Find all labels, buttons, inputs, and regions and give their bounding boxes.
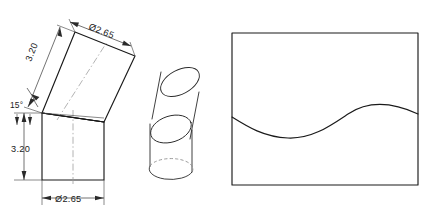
lower-cylinder-bottom-front-arc (149, 166, 192, 179)
dimension-upper-diameter-label: Ø2.65 (87, 22, 115, 41)
isometric-pictorial-view (147, 62, 204, 180)
dimension-upper-length: 3.20 (24, 25, 75, 113)
dimension-lower-length: 3.20 (11, 113, 42, 180)
upper-cylinder-right-wall (190, 92, 199, 139)
dimension-upper-length-label: 3.20 (24, 41, 40, 62)
drawing-canvas: Ø2.65 3.20 15° (0, 0, 439, 215)
development-cut-curve (232, 105, 418, 138)
technical-drawing-sheet: Ø2.65 3.20 15° (0, 0, 439, 215)
development-rectangle (232, 33, 418, 185)
lower-cylinder-bottom-hidden-arc (150, 159, 193, 172)
front-orthographic-view: Ø2.65 3.20 15° (10, 19, 135, 205)
flat-pattern-development-view (232, 33, 418, 185)
upper-branch-outline (42, 32, 135, 122)
upper-cylinder-left-wall (152, 72, 161, 119)
upper-cylinder-top-ellipse (156, 62, 204, 103)
dimension-lower-length-label: 3.20 (11, 144, 30, 154)
upper-branch-centerline (57, 42, 107, 120)
dimension-miter-angle-label: 15° (10, 100, 23, 110)
miter-face-ellipse (147, 110, 195, 148)
dimension-lower-diameter-label: Ø2.65 (55, 194, 82, 204)
